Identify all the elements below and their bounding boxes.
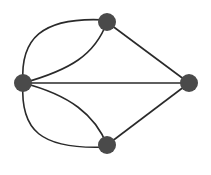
graph-diagram: [0, 0, 211, 175]
node-left: [14, 74, 32, 92]
edge-left-top-inner: [23, 22, 107, 83]
edge-left-bottom-outer: [23, 83, 107, 147]
node-top: [98, 13, 116, 31]
graph-canvas: [0, 0, 211, 175]
edge-top-right: [107, 22, 189, 83]
node-right: [180, 74, 198, 92]
edge-bottom-right: [107, 83, 189, 145]
node-bottom: [98, 136, 116, 154]
edge-left-bottom-inner: [23, 83, 107, 145]
edge-left-top-outer: [23, 20, 107, 83]
